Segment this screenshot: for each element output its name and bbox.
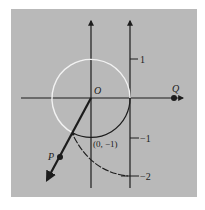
point-q-label: Q	[172, 83, 180, 94]
unit-circle-wrapping-diagram: O Q P (0, −1) 1 −1 −2	[0, 0, 205, 210]
point-p-label: P	[47, 151, 54, 162]
tick-1-label: 1	[140, 54, 145, 65]
intersection-label: (0, −1)	[93, 139, 118, 149]
tick-neg2-label: −2	[140, 171, 151, 182]
point-p	[57, 154, 63, 160]
origin-label: O	[94, 85, 101, 96]
point-q	[171, 95, 177, 101]
tick-neg1-label: −1	[140, 133, 151, 144]
intersection-point	[71, 132, 74, 135]
